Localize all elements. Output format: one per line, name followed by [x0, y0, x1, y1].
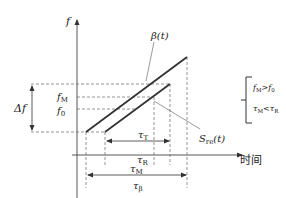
- horizontal-guides: [31, 84, 170, 132]
- s-re-leader: [154, 101, 200, 129]
- f-0-label: f0: [56, 105, 65, 118]
- beta-leader: [146, 42, 154, 81]
- tau-beta-label: τβ: [133, 180, 143, 193]
- x-axis-label: 时间: [240, 154, 262, 167]
- frequency-time-diagram: f 时间 β(t) Sre(t) Δf fM f0 τT τR τM τβ fM…: [0, 0, 286, 198]
- y-axis-label: f: [65, 15, 72, 28]
- delta-f-label: Δf: [13, 102, 28, 115]
- condition-freq: fM>f0: [252, 83, 275, 93]
- f-m-label: fM: [56, 91, 68, 104]
- s-re-line: [105, 84, 170, 132]
- condition-time: τM<τR: [253, 104, 279, 114]
- tau-r-label: τR: [137, 154, 149, 167]
- beta-line: [86, 57, 187, 132]
- tau-t-label: τT: [138, 129, 149, 142]
- condition-bracket: [246, 77, 252, 123]
- s-re-label: Sre(t): [199, 133, 225, 146]
- beta-label: β(t): [150, 30, 169, 41]
